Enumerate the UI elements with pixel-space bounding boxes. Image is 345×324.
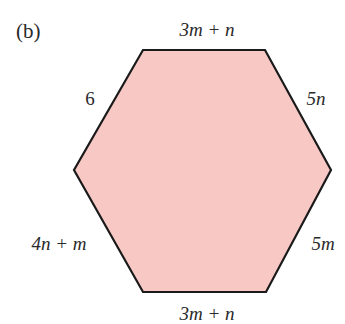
side-label-top-right: 5n: [307, 88, 326, 109]
side-label-top: 3m + n: [178, 19, 234, 40]
part-label: (b): [16, 19, 41, 43]
hexagon-diagram: (b) 3m + n 6 5n 4n + m 5m 3m + n: [0, 0, 345, 324]
side-label-bottom-left: 4n + m: [31, 233, 86, 254]
hexagon-shape: [74, 50, 331, 292]
side-label-top-left: 6: [85, 88, 95, 109]
side-label-bottom-right: 5m: [311, 233, 334, 254]
side-label-bottom: 3m + n: [178, 303, 234, 324]
